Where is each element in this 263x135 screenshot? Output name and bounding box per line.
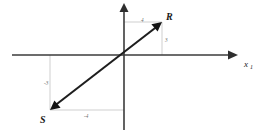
measure-label-lower-horizontal: -4 [84, 113, 89, 119]
axis-label-x1-subscript: 1 [250, 64, 253, 70]
coordinate-plane-svg: 4 3 -3 -4 R S x 1 [0, 0, 263, 135]
measure-label-lower-vertical: -3 [44, 80, 49, 86]
vector-diagram-figure: 4 3 -3 -4 R S x 1 [0, 0, 263, 135]
measure-label-upper-horizontal: 4 [141, 17, 144, 23]
vertical-axis-arrowhead [120, 3, 129, 12]
axis-label-x1: x [243, 59, 248, 69]
point-label-r: R [165, 11, 173, 22]
horizontal-axis-arrowhead [228, 51, 238, 60]
point-label-s: S [40, 114, 46, 125]
vector-line-sr [53, 25, 159, 107]
measure-label-upper-vertical: 3 [165, 37, 168, 43]
